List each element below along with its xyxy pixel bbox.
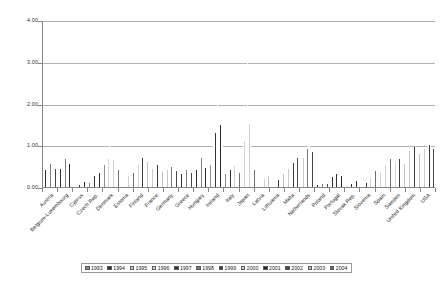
legend-item[interactable]: 1996 [152, 266, 170, 271]
country-bar-group [103, 21, 118, 187]
legend-item[interactable]: 2000 [241, 266, 259, 271]
y-axis-tick-label: 1.00 [4, 143, 38, 148]
country-bar-group [255, 21, 270, 187]
legend-label: 1997 [180, 266, 192, 271]
plot-area [42, 21, 435, 188]
x-axis-tick-mark [329, 188, 330, 192]
x-axis-tick-mark [57, 188, 58, 192]
legend-swatch [107, 266, 112, 271]
y-axis-tick-label: 2.00 [4, 102, 38, 107]
country-bar-group [240, 21, 255, 187]
country-bar-group [43, 21, 58, 187]
x-axis-tick-mark [163, 188, 164, 192]
legend-item[interactable]: 2001 [263, 266, 281, 271]
legend-label: 1993 [91, 266, 103, 271]
x-axis-tick-mark [42, 188, 43, 192]
x-axis-tick-mark [344, 188, 345, 192]
country-bar-group [73, 21, 88, 187]
x-axis-tick-mark [359, 188, 360, 192]
legend-swatch [263, 266, 268, 271]
legend-swatch [196, 266, 201, 271]
legend-label: 2001 [269, 266, 281, 271]
legend-swatch [174, 266, 179, 271]
country-bar-group [360, 21, 375, 187]
y-axis-tick-label: 4.00 [4, 18, 38, 23]
legend-item[interactable]: 1998 [196, 266, 214, 271]
x-axis-tick-mark [420, 188, 421, 192]
country-bar-group [300, 21, 315, 187]
x-axis-tick-mark [223, 188, 224, 192]
y-axis-tick-label: 3.00 [4, 60, 38, 65]
x-axis-tick-mark [375, 188, 376, 192]
legend-item[interactable]: 1994 [107, 266, 125, 271]
country-bar-group [134, 21, 149, 187]
country-bar-group [376, 21, 391, 187]
legend-item[interactable]: 2003 [308, 266, 326, 271]
legend-swatch [152, 266, 157, 271]
legend-item[interactable]: 1993 [85, 266, 103, 271]
x-axis-tick-mark [118, 188, 119, 192]
legend-swatch [85, 266, 90, 271]
legend-item[interactable]: 2002 [285, 266, 303, 271]
legend-swatch [330, 266, 335, 271]
country-bar-group [315, 21, 330, 187]
country-bar-group [330, 21, 345, 187]
country-bar-group [224, 21, 239, 187]
x-axis-tick-mark [239, 188, 240, 192]
legend-item[interactable]: 1995 [130, 266, 148, 271]
country-bar-group [406, 21, 421, 187]
legend-label: 2000 [247, 266, 259, 271]
legend-swatch [241, 266, 246, 271]
x-axis-tick-mark [133, 188, 134, 192]
legend-label: 1996 [158, 266, 170, 271]
bar [435, 153, 436, 187]
x-axis-tick-mark [178, 188, 179, 192]
country-bar-group [345, 21, 360, 187]
legend-swatch [308, 266, 313, 271]
x-axis-tick-mark [102, 188, 103, 192]
legend-item[interactable]: 1997 [174, 266, 192, 271]
x-axis-tick-mark [254, 188, 255, 192]
legend-swatch [130, 266, 135, 271]
legend-item[interactable]: 2004 [330, 266, 348, 271]
legend-swatch [219, 266, 224, 271]
x-axis-tick-mark [72, 188, 73, 192]
country-bar-group [391, 21, 406, 187]
y-axis-tick-label: 0.00 [4, 185, 38, 190]
legend-label: 1998 [202, 266, 214, 271]
x-axis-tick-mark [314, 188, 315, 192]
x-axis-tick-mark [405, 188, 406, 192]
country-bar-group [270, 21, 285, 187]
x-axis-tick-mark [435, 188, 436, 192]
country-bar-group [58, 21, 73, 187]
x-axis-tick-mark [193, 188, 194, 192]
bar-chart: 0.001.002.003.004.00 AustriaBelgium-Luxe… [0, 0, 448, 293]
country-bar-group [149, 21, 164, 187]
x-axis-tick-mark [284, 188, 285, 192]
legend-label: 2004 [336, 266, 348, 271]
legend-label: 1995 [136, 266, 148, 271]
x-axis-tick-mark [390, 188, 391, 192]
country-bar-group [164, 21, 179, 187]
country-bar-group [194, 21, 209, 187]
legend-swatch [285, 266, 290, 271]
legend-label: 2002 [291, 266, 303, 271]
country-bar-group [209, 21, 224, 187]
country-bar-group [88, 21, 103, 187]
x-axis-tick-mark [299, 188, 300, 192]
x-axis-tick-mark [87, 188, 88, 192]
legend-label: 1999 [225, 266, 237, 271]
country-bar-group [421, 21, 436, 187]
legend-label: 2003 [314, 266, 326, 271]
legend: 1993199419951996199719981999200020012002… [81, 263, 352, 273]
country-bar-group [119, 21, 134, 187]
x-axis-tick-mark [148, 188, 149, 192]
country-bar-group [285, 21, 300, 187]
x-axis-tick-mark [269, 188, 270, 192]
legend-label: 1994 [113, 266, 125, 271]
legend-item[interactable]: 1999 [219, 266, 237, 271]
country-bar-group [179, 21, 194, 187]
bars-layer [43, 21, 435, 187]
x-axis-tick-mark [208, 188, 209, 192]
